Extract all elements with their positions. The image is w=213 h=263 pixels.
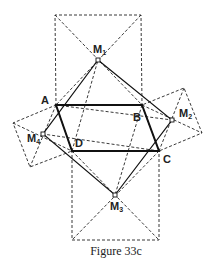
label-b: B [133, 111, 141, 123]
m1-marker [96, 58, 100, 62]
m3-marker [113, 193, 117, 197]
aux-line [56, 105, 172, 120]
label-a: A [41, 94, 49, 106]
m4-marker [41, 132, 45, 136]
geometry-figure: A B C D M1 M2 M3 M4 Figure 33c [0, 0, 213, 263]
label-m1: M1 [93, 43, 106, 56]
label-d: D [75, 137, 83, 149]
m2-marker [170, 118, 174, 122]
label-m4: M4 [27, 132, 40, 145]
label-c: C [163, 153, 171, 165]
label-m2: M2 [179, 107, 192, 120]
square-m1m2m3m4 [43, 60, 172, 195]
figure-caption: Figure 33c [90, 244, 142, 258]
